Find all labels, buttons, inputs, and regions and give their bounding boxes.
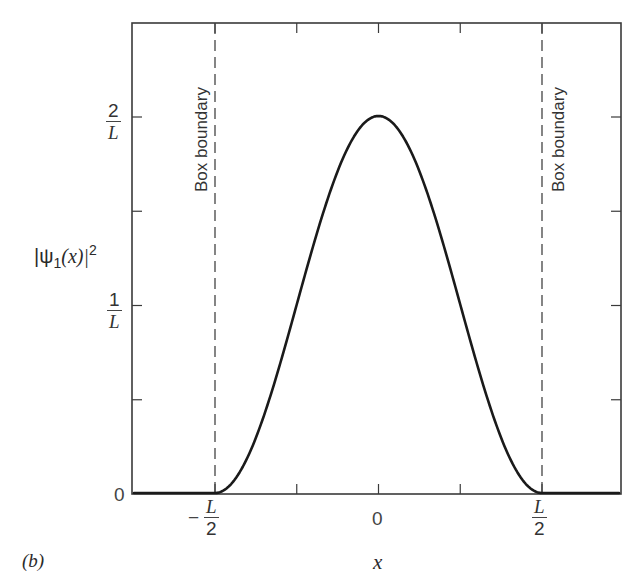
y-tick-zero: 0 <box>114 484 125 506</box>
y-label-sup: 2 <box>89 242 97 258</box>
y-tick-numerator: 1 <box>107 290 122 311</box>
y-tick-two-over-l: 2 L <box>106 101 121 142</box>
x-axis-label: x <box>373 550 382 575</box>
y-tick-numerator: 2 <box>106 101 121 122</box>
x-tick-numerator: L <box>204 497 219 518</box>
y-tick-denominator: L <box>108 122 119 142</box>
box-boundary-lines <box>215 23 542 494</box>
x-tick-numerator: L <box>532 497 547 518</box>
x-tick-pos-half: L 2 <box>532 497 547 538</box>
panel-label: (b) <box>22 550 44 572</box>
left-box-boundary-label: Box boundary <box>192 87 212 192</box>
right-box-boundary-label: Box boundary <box>549 87 569 192</box>
y-label-mid: (x)| <box>61 245 89 267</box>
x-tick-denominator: 2 <box>206 518 217 538</box>
x-tick-zero: 0 <box>372 508 383 530</box>
x-tick-denominator: 2 <box>534 518 545 538</box>
y-axis-label: |ψ1(x)|2 <box>34 242 97 271</box>
y-tick-one-over-l: 1 L <box>107 290 122 331</box>
x-tick-neg-half: L 2 <box>204 497 219 538</box>
plot-area <box>0 0 629 581</box>
x-tick-neg-half-sign: − <box>188 507 199 529</box>
y-label-prefix: |ψ <box>34 245 53 267</box>
y-tick-denominator: L <box>109 311 120 331</box>
